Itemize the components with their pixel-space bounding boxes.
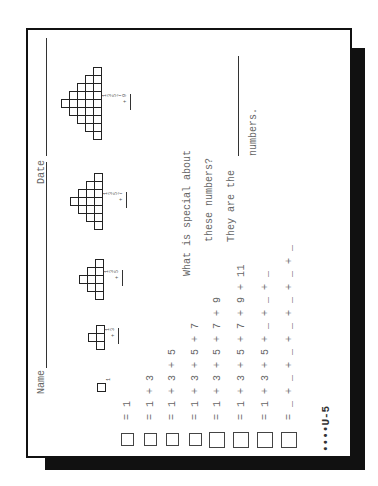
answer-box[interactable] xyxy=(121,433,134,446)
question-line-3: They are the xyxy=(226,170,237,242)
grid-square xyxy=(93,91,102,100)
sum-line xyxy=(118,328,119,344)
grid-square xyxy=(93,67,102,76)
pyramid-label: + 7 xyxy=(119,192,124,206)
grid-square xyxy=(94,197,103,206)
grid-square xyxy=(93,83,102,92)
grid-square xyxy=(94,173,103,182)
grid-square xyxy=(93,123,102,132)
grid-square xyxy=(96,325,105,334)
page-code: ••••U-5 xyxy=(320,406,332,452)
equation-text: = _ + _ + _ + _ + _ + _ + _ xyxy=(284,244,295,420)
grid-square xyxy=(94,213,103,222)
sum-line xyxy=(122,270,123,286)
pyramid-sum-labels: 135+ 7 xyxy=(104,192,124,206)
pyramid-sum-labels: 1357+ 9 xyxy=(103,94,128,108)
pyramid-label: + 5 xyxy=(115,270,120,284)
equation-text: = 1 + 3 + 5 + 7 + 9 xyxy=(212,296,223,420)
sum-line xyxy=(126,192,127,208)
grid-square xyxy=(94,221,103,230)
grid-square xyxy=(94,189,103,198)
question-line-2: these numbers? xyxy=(204,158,215,242)
pyramid-label: + 3 xyxy=(111,328,116,342)
date-label: Date xyxy=(36,160,47,184)
sum-line xyxy=(130,94,131,110)
answer-box[interactable] xyxy=(281,432,297,448)
name-field[interactable] xyxy=(46,162,47,368)
equation-text: = 1 + 3 + 5 xyxy=(167,348,178,420)
question-line-4: numbers. xyxy=(248,108,259,156)
grid-square xyxy=(95,291,104,300)
answer-box[interactable] xyxy=(189,433,202,446)
pyramid-sum-labels: 1+ 3 xyxy=(106,328,116,342)
answer-box[interactable] xyxy=(144,433,157,446)
grid-square xyxy=(94,205,103,214)
equation-text: = 1 xyxy=(122,400,133,420)
grid-square xyxy=(95,275,104,284)
answer-box[interactable] xyxy=(233,432,249,448)
grid-square xyxy=(93,115,102,124)
date-field[interactable] xyxy=(46,38,47,156)
answer-box[interactable] xyxy=(209,432,225,448)
grid-square xyxy=(95,283,104,292)
pyramid-label: + 9 xyxy=(123,94,128,108)
pyramid-sum-labels: 13+ 5 xyxy=(105,270,120,284)
equation-text: = 1 + 3 + 5 + 7 + 9 + 11 xyxy=(236,264,247,420)
grid-square xyxy=(96,333,105,342)
grid-square xyxy=(97,383,106,392)
answer-box[interactable] xyxy=(166,433,179,446)
equation-text: = 1 + 3 + 5 + _ + _ + _ xyxy=(260,270,271,420)
answer-blank[interactable] xyxy=(238,56,239,156)
grid-square xyxy=(93,75,102,84)
name-label: Name xyxy=(36,370,47,394)
answer-box[interactable] xyxy=(257,432,273,448)
equation-text: = 1 + 3 + 5 + 7 xyxy=(190,322,201,420)
grid-square xyxy=(95,259,104,268)
pyramid-sum-labels: 1 xyxy=(107,378,112,392)
pyramid-label: 1 xyxy=(107,378,112,392)
grid-square xyxy=(93,107,102,116)
grid-square xyxy=(94,181,103,190)
grid-square xyxy=(96,341,105,350)
grid-square xyxy=(93,131,102,140)
grid-square xyxy=(93,99,102,108)
equation-text: = 1 + 3 xyxy=(145,374,156,420)
grid-square xyxy=(95,267,104,276)
worksheet-sheet: Name Date 11+ 313+ 5135+ 71357+ 9 = 1= 1… xyxy=(28,30,350,456)
question-line-1: What is special about xyxy=(182,150,193,276)
worksheet-frame: Name Date 11+ 313+ 5135+ 71357+ 9 = 1= 1… xyxy=(26,28,352,458)
